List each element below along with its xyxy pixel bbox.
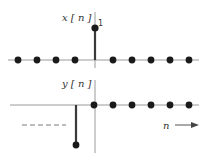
sample-dot [186, 102, 193, 109]
bottom-plot: y [ n ] n [10, 78, 199, 153]
signal-diagram: x [ n ] 1 y [ n ] n [0, 0, 208, 160]
sample-dot [148, 57, 155, 64]
sample-dot [72, 57, 79, 64]
sample-dot [110, 57, 117, 64]
sample-dot [15, 57, 22, 64]
impulse-value-label: 1 [98, 19, 103, 28]
sample-dot [167, 102, 174, 109]
sample-dot [129, 102, 136, 109]
top-plot: x [ n ] 1 [8, 12, 199, 68]
sample-dot [129, 57, 136, 64]
n-axis-arrow-icon [175, 122, 199, 128]
n-axis-label: n [163, 120, 169, 131]
sample-dot [148, 102, 155, 109]
sample-dot [110, 102, 117, 109]
sample-dot [186, 57, 193, 64]
sample-dot [91, 102, 98, 109]
sample-dot [34, 57, 41, 64]
sample-dot [167, 57, 174, 64]
y-n-label: y [ n ] [61, 78, 92, 89]
sample-dot [53, 57, 60, 64]
negative-sample-dot [73, 142, 80, 149]
x-n-label: x [ n ] [62, 12, 92, 23]
